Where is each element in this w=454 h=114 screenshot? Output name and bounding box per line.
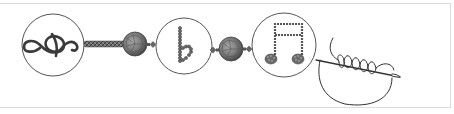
flat-sign-medallion	[156, 18, 212, 74]
needle-with-thread-icon	[316, 38, 400, 105]
beaded-bracelet-illustration	[0, 0, 454, 114]
beaded-rope	[84, 41, 126, 47]
eighth-notes-medallion	[252, 13, 316, 77]
connector-beads-3	[243, 46, 252, 52]
connector-beads-1	[146, 42, 156, 48]
faceted-bead-1	[123, 32, 147, 56]
faceted-bead-2	[219, 37, 243, 61]
treble-clef-medallion	[22, 14, 84, 76]
